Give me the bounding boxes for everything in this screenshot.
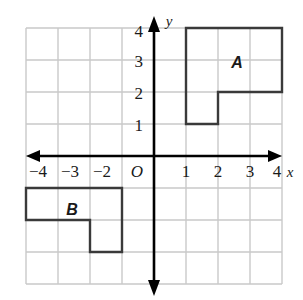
y-tick-label-1: 1 <box>135 116 144 135</box>
x-tick-label-neg4: −4 <box>29 162 48 181</box>
coordinate-plane-svg: −4 −3 −2 1 2 3 4 1 2 3 4 O x y A B <box>0 0 303 300</box>
x-tick-label-1: 1 <box>182 162 191 181</box>
x-axis-label: x <box>286 164 294 180</box>
x-tick-label-4: 4 <box>273 162 282 181</box>
coordinate-plane-figure: −4 −3 −2 1 2 3 4 1 2 3 4 O x y A B <box>0 0 303 300</box>
shape-a-label: A <box>230 54 243 71</box>
y-tick-label-2: 2 <box>135 84 144 103</box>
y-axis-label: y <box>164 13 173 29</box>
x-tick-label-3: 3 <box>246 162 255 181</box>
origin-label: O <box>131 162 143 181</box>
y-tick-label-4: 4 <box>135 22 144 41</box>
shape-b-label: B <box>66 201 78 218</box>
figure-background <box>0 0 303 300</box>
x-tick-label-neg2: −2 <box>93 162 111 181</box>
x-tick-label-2: 2 <box>214 162 223 181</box>
y-tick-label-3: 3 <box>135 52 144 71</box>
x-tick-label-neg3: −3 <box>61 162 79 181</box>
